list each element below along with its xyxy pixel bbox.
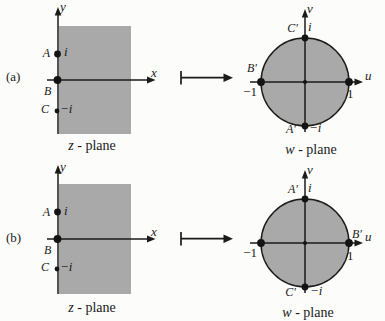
w-plane-caption: w - plane xyxy=(271,142,351,157)
point-c-value: −i xyxy=(60,102,72,115)
w-plane-caption-var: w xyxy=(282,305,291,320)
point-c-dot xyxy=(55,109,60,114)
point-c-label: C xyxy=(36,261,49,273)
w-plane-caption-var: w xyxy=(285,142,294,157)
w-plane-caption-rest: - plane xyxy=(295,305,333,320)
z-plane-caption-rest: - plane xyxy=(77,300,115,315)
figure-conformal-mapping: (a) y x A i B C −i z - plane v u C′ i B′… xyxy=(0,0,385,321)
point-a-label: A xyxy=(37,47,50,59)
x-axis-label: x xyxy=(151,66,157,79)
point-b-dot xyxy=(54,76,62,84)
u-axis-arrowhead-icon xyxy=(355,79,364,86)
u-axis-label: u xyxy=(365,230,372,243)
circle-bottom-dot xyxy=(302,123,309,130)
w-plane-caption-rest: - plane xyxy=(298,142,336,157)
v-axis-label: v xyxy=(307,163,313,176)
circle-bottom-name: A′ xyxy=(278,123,296,135)
z-plane-caption-var: z xyxy=(68,300,73,315)
point-c-dot xyxy=(55,267,60,272)
point-b-label: B xyxy=(44,244,51,256)
circle-center-dot xyxy=(303,241,307,245)
circle-bottom-value: −i xyxy=(309,121,321,134)
maps-to-arrowhead-icon xyxy=(224,235,234,243)
point-a-dot xyxy=(54,209,61,216)
circle-right-value: 1 xyxy=(347,249,354,262)
x-axis-label: x xyxy=(151,225,157,238)
circle-left-dot xyxy=(257,78,265,86)
z-plane-caption-var: z xyxy=(68,138,73,153)
circle-top-dot xyxy=(302,35,309,42)
circle-left-name: B′ xyxy=(240,62,257,74)
circle-bottom-name: C′ xyxy=(278,286,296,298)
circle-top-name: C′ xyxy=(280,22,298,34)
circle-bottom-value: −i xyxy=(310,284,322,297)
row-a: (a) y x A i B C −i z - plane v u C′ i B′… xyxy=(0,0,385,160)
v-axis-label: v xyxy=(307,2,313,15)
circle-left-value: −1 xyxy=(240,246,257,259)
maps-to-arrowhead-icon xyxy=(224,74,234,82)
row-label: (b) xyxy=(6,231,21,244)
z-plane-caption-rest: - plane xyxy=(77,138,115,153)
point-a-value: i xyxy=(64,204,68,217)
point-a-label: A xyxy=(37,206,50,218)
circle-top-dot xyxy=(302,196,309,203)
point-a-dot xyxy=(54,51,61,58)
point-c-value: −i xyxy=(60,260,72,273)
point-c-label: C xyxy=(36,103,49,115)
row-label: (a) xyxy=(6,70,20,83)
point-b-dot xyxy=(54,235,62,243)
z-plane-caption: z - plane xyxy=(56,138,128,153)
w-plane-caption: w - plane xyxy=(268,305,348,320)
circle-left-dot xyxy=(257,239,265,247)
circle-bottom-dot xyxy=(302,284,309,291)
row-b-geometry xyxy=(0,160,385,321)
point-a-value: i xyxy=(64,45,68,58)
z-plane-caption: z - plane xyxy=(56,300,128,315)
circle-top-value: i xyxy=(308,181,312,194)
circle-right-value: 1 xyxy=(347,87,354,100)
circle-right-name: B′ xyxy=(352,228,362,240)
circle-right-dot xyxy=(345,78,353,86)
point-b-label: B xyxy=(44,85,51,97)
circle-top-name: A′ xyxy=(280,183,298,195)
circle-center-dot xyxy=(303,80,307,84)
row-a-geometry xyxy=(0,0,385,160)
y-axis-label: y xyxy=(60,0,66,13)
y-axis-label: y xyxy=(60,160,66,173)
circle-left-value: −1 xyxy=(240,85,257,98)
row-b: (b) y x A i B C −i z - plane v u A′ i −1… xyxy=(0,160,385,321)
u-axis-label: u xyxy=(365,69,372,82)
circle-top-value: i xyxy=(308,20,312,33)
